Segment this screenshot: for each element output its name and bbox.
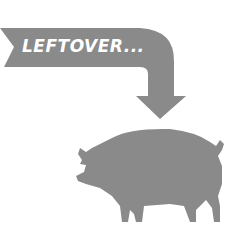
- banner-text: LEFTOVER...: [22, 36, 145, 56]
- pig-icon: [76, 129, 224, 222]
- illustration: LEFTOVER...: [0, 0, 241, 231]
- graphic: [0, 0, 241, 231]
